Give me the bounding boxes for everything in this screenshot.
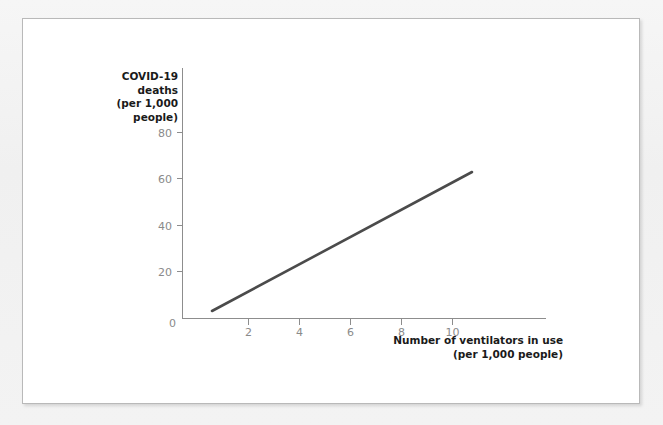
- x-axis-title: Number of ventilators in use (per 1,000 …: [393, 334, 563, 360]
- x-tick-label-2: 2: [245, 326, 252, 339]
- data-series-line: [212, 172, 472, 311]
- scatter-line-chart: 80 60 40 20 0 COVID-19 deaths (per 1,000…: [0, 0, 663, 425]
- y-tick-label-0: 0: [169, 317, 176, 330]
- y-axis-title-line-4: people): [133, 111, 178, 123]
- x-tick-label-4: 4: [296, 326, 303, 339]
- y-axis-title-line-1: COVID-19: [122, 70, 178, 82]
- x-axis-title-line-2: (per 1,000 people): [453, 348, 563, 360]
- y-tick-label-40: 40: [158, 220, 172, 233]
- y-tick-label-60: 60: [158, 173, 172, 186]
- y-axis-ticks: [177, 133, 183, 272]
- y-axis-title: COVID-19 deaths (per 1,000 people): [117, 70, 178, 123]
- x-tick-label-6: 6: [347, 326, 354, 339]
- y-tick-label-80: 80: [158, 127, 172, 140]
- y-axis-title-line-2: deaths: [138, 84, 178, 96]
- page-background: 80 60 40 20 0 COVID-19 deaths (per 1,000…: [0, 0, 663, 425]
- y-axis-title-line-3: (per 1,000: [117, 97, 178, 109]
- y-tick-label-20: 20: [158, 266, 172, 279]
- x-axis-ticks: [249, 319, 453, 325]
- x-axis-title-line-1: Number of ventilators in use: [393, 334, 563, 346]
